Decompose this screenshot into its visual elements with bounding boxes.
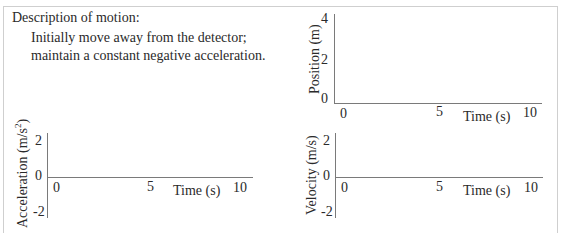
velocity-x-axis xyxy=(335,177,543,178)
velocity-ytick-0: 0 xyxy=(323,169,330,183)
velocity-y-axis xyxy=(335,133,336,218)
acceleration-x-axis xyxy=(47,177,253,178)
position-xtick-0: 0 xyxy=(340,107,347,121)
velocity-x-label: Time (s) xyxy=(463,184,510,198)
acceleration-y-axis xyxy=(47,133,48,218)
description-title: Description of motion: xyxy=(12,10,140,26)
acceleration-y-label: Acceleration (m/s2) xyxy=(14,119,30,228)
velocity-xtick-0: 0 xyxy=(341,181,348,195)
acceleration-ytick-0: 0 xyxy=(35,169,42,183)
position-xtick-10: 10 xyxy=(523,106,537,120)
acceleration-ytick-neg2: -2 xyxy=(33,205,45,219)
velocity-xtick-5: 5 xyxy=(436,180,443,194)
acceleration-xtick-10: 10 xyxy=(233,181,247,195)
acceleration-xtick-5: 5 xyxy=(147,180,154,194)
acceleration-x-label: Time (s) xyxy=(173,184,220,198)
position-y-label: Position (m) xyxy=(308,24,322,94)
description-line-2: maintain a constant negative acceleratio… xyxy=(31,48,265,64)
position-y-axis xyxy=(334,14,335,104)
position-ytick-0: 0 xyxy=(321,92,328,106)
position-x-label: Time (s) xyxy=(463,110,510,124)
acceleration-xtick-0: 0 xyxy=(53,181,60,195)
position-xtick-5: 5 xyxy=(436,105,443,119)
velocity-y-label: Velocity (m/s) xyxy=(305,135,319,215)
velocity-ytick-neg2: -2 xyxy=(321,205,333,219)
velocity-xtick-10: 10 xyxy=(524,181,538,195)
position-ytick-2: 2 xyxy=(321,53,328,67)
position-ytick-4: 4 xyxy=(321,12,328,26)
acceleration-ytick-2: 2 xyxy=(35,134,42,148)
description-line-1: Initially move away from the detector; xyxy=(31,30,247,46)
velocity-ytick-2: 2 xyxy=(323,134,330,148)
